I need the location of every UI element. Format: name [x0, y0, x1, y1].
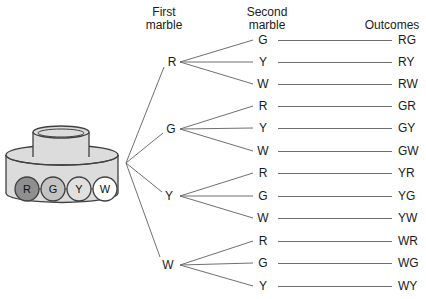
outcome-rw: RW [398, 78, 418, 90]
second-marble-yw: W [257, 212, 268, 224]
first-marble-r: R [168, 56, 177, 68]
jar-marble-label-g: G [49, 184, 58, 195]
outcome-wg: WG [398, 257, 419, 269]
outcome-gw: GW [398, 145, 419, 157]
outcome-wy: WY [398, 280, 417, 292]
outcome-gr: GR [398, 100, 416, 112]
fan-g [180, 106, 253, 151]
second-marble-wy: Y [259, 280, 267, 292]
header-outcomes: Outcomes [365, 19, 420, 31]
outcome-wr: WR [398, 235, 418, 247]
first-marble-w: W [162, 259, 173, 271]
header-second-marble-line2: marble [249, 19, 286, 31]
jar-rim-outer [33, 126, 89, 138]
root-fan-lines [126, 67, 164, 257]
second-marble-gr: R [259, 100, 268, 112]
outcome-yr: YR [398, 167, 415, 179]
second-marble-yg: G [258, 190, 267, 202]
fan-w [180, 241, 253, 286]
outcome-yg: YG [398, 190, 415, 202]
second-marble-gw: W [257, 145, 268, 157]
header-second-marble-line1: Second [247, 6, 288, 18]
second-marble-wg: G [258, 257, 267, 269]
fan-r [180, 40, 253, 84]
jar-marble-label-w: W [100, 184, 110, 195]
second-marble-ry: Y [259, 56, 267, 68]
header-first-marble-line1: First [152, 6, 175, 18]
outcome-gy: GY [398, 122, 415, 134]
second-marble-yr: R [259, 167, 268, 179]
probability-tree-diagram: First marble Second marble Outcomes R G … [0, 0, 426, 299]
header-first-marble-line2: marble [146, 19, 183, 31]
outcome-yw: YW [398, 212, 417, 224]
outcome-lines [278, 41, 392, 287]
second-marble-rw: W [257, 78, 268, 90]
first-marble-g: G [166, 123, 175, 135]
outcome-ry: RY [398, 56, 414, 68]
first-marble-y: Y [165, 190, 173, 202]
second-marble-gy: Y [259, 122, 267, 134]
diagram-graphics [0, 0, 426, 299]
jar-marble-label-y: Y [75, 184, 82, 195]
outcome-rg: RG [398, 34, 416, 46]
second-marble-rg: G [258, 34, 267, 46]
second-marble-wr: R [259, 235, 268, 247]
fan-y [180, 173, 253, 218]
jar-marble-label-r: R [23, 184, 31, 195]
